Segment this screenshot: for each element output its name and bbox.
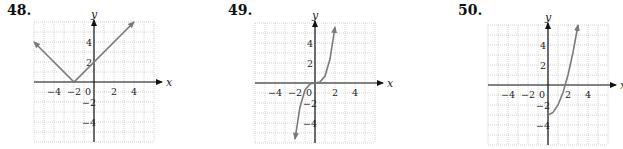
x-tick-label: −2 xyxy=(521,89,535,100)
y-tick-label: 4 xyxy=(86,37,92,48)
x-tick-label: −2 xyxy=(288,87,302,98)
y-tick-label: 4 xyxy=(540,40,546,51)
y-axis-label: y xyxy=(544,11,552,24)
x-tick-label: −4 xyxy=(47,86,61,97)
x-tick-label: 2 xyxy=(111,86,117,97)
y-axis-label: y xyxy=(311,9,319,22)
x-tick-label: 4 xyxy=(131,86,137,97)
graph-48: xy−4−202442−2−4 xyxy=(34,8,173,142)
x-tick-label: 4 xyxy=(585,89,591,100)
graphs-canvas: xy−4−202442−2−4xy−4−202442−2−4xy−4−20244… xyxy=(0,0,623,149)
x-tick-label: 2 xyxy=(332,87,338,98)
y-tick-label: 2 xyxy=(540,60,546,71)
x-axis-label: x xyxy=(166,76,173,89)
x-tick-label: 2 xyxy=(565,89,571,100)
y-axis-label: y xyxy=(90,8,98,21)
x-tick-label: −4 xyxy=(501,89,515,100)
y-tick-label: −4 xyxy=(303,118,317,129)
x-tick-label: 0 xyxy=(539,89,545,100)
y-tick-label: −2 xyxy=(303,98,317,109)
x-tick-label: 0 xyxy=(85,86,91,97)
y-tick-label: −2 xyxy=(536,100,550,111)
y-tick-label: −2 xyxy=(82,97,96,108)
graph-50: xy−4−202442−2−4 xyxy=(488,11,623,145)
x-tick-label: 4 xyxy=(352,87,358,98)
y-tick-label: 4 xyxy=(307,38,313,49)
y-tick-label: −4 xyxy=(536,120,550,131)
x-tick-label: −2 xyxy=(67,86,81,97)
graph-49: xy−4−202442−2−4 xyxy=(255,9,394,143)
function-curve xyxy=(548,25,578,115)
y-tick-label: −4 xyxy=(82,117,96,128)
x-tick-label: −4 xyxy=(268,87,282,98)
y-tick-label: 2 xyxy=(307,58,313,69)
x-axis-label: x xyxy=(387,77,394,90)
